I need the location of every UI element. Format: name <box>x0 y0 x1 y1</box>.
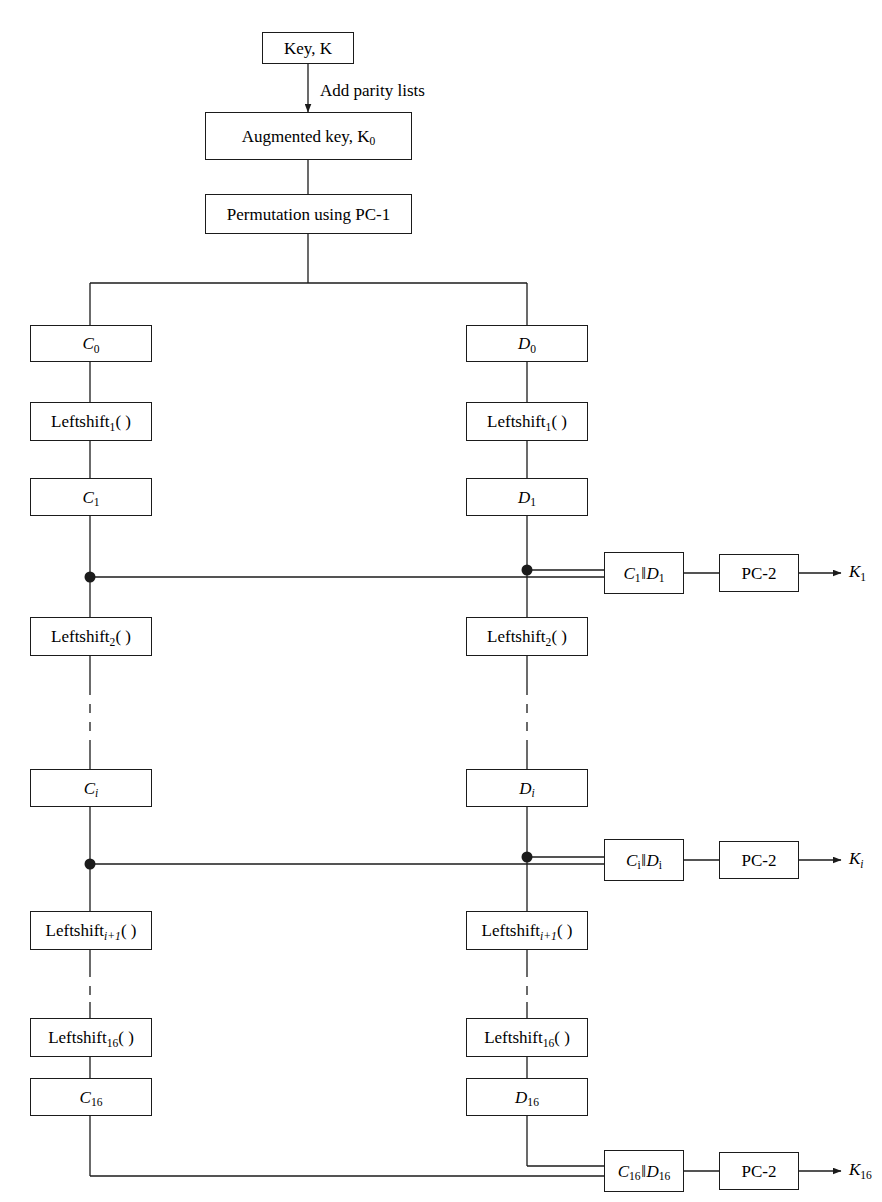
box-leftshift-i-plus-1-left[interactable]: Leftshifti+1( ) <box>30 911 152 950</box>
box-d0[interactable]: D0 <box>466 325 588 362</box>
box-di-label: Di <box>519 780 535 797</box>
box-d1[interactable]: D1 <box>466 478 588 516</box>
box-di[interactable]: Di <box>466 769 588 807</box>
label-add-parity-lists: Add parity lists <box>320 82 425 99</box>
box-leftshift1-left[interactable]: Leftshift1( ) <box>30 402 152 441</box>
box-merge-c16-d16-label: C16‖D16 <box>618 1163 671 1180</box>
des-key-schedule-diagram: Key, K Add parity lists Augmented key, K… <box>0 0 882 1202</box>
label-k1-output: K1 <box>849 563 866 580</box>
box-leftshift1-right[interactable]: Leftshift1( ) <box>466 402 588 441</box>
label-k16-output: K16 <box>849 1161 872 1178</box>
box-pc2-round16[interactable]: PC-2 <box>719 1152 799 1190</box>
box-c0-label: C0 <box>82 335 99 352</box>
box-merge-c16-d16[interactable]: C16‖D16 <box>604 1150 684 1192</box>
box-key-label: Key, K <box>284 40 332 57</box>
junction-dot-round1-left <box>85 572 96 583</box>
box-permutation-pc1[interactable]: Permutation using PC-1 <box>205 194 412 234</box>
box-merge-c1-d1-label: C1‖D1 <box>624 565 665 582</box>
box-c16[interactable]: C16 <box>30 1078 152 1116</box>
box-d16[interactable]: D16 <box>466 1078 588 1116</box>
label-ki-output: Ki <box>849 850 864 867</box>
box-augmented-key[interactable]: Augmented key, K0 <box>205 112 412 160</box>
junction-dot-round1-right <box>522 565 533 576</box>
box-leftshift1-left-label: Leftshift1( ) <box>51 413 131 430</box>
box-c0[interactable]: C0 <box>30 325 152 362</box>
junction-dot-roundi-left <box>85 859 96 870</box>
box-leftshift16-right-label: Leftshift16( ) <box>484 1029 570 1046</box>
box-leftshift1-right-label: Leftshift1( ) <box>487 413 567 430</box>
junction-dot-roundi-right <box>522 852 533 863</box>
box-leftshift2-left-label: Leftshift2( ) <box>51 628 131 645</box>
box-ci-label: Ci <box>84 780 99 797</box>
box-permutation-pc1-label: Permutation using PC-1 <box>227 206 390 223</box>
box-key[interactable]: Key, K <box>262 32 354 64</box>
box-ci[interactable]: Ci <box>30 769 152 807</box>
box-d16-label: D16 <box>515 1089 539 1106</box>
box-pc2-roundi-label: PC-2 <box>742 852 777 869</box>
box-merge-ci-di-label: Ci‖Di <box>626 852 662 869</box>
box-leftshift16-left-label: Leftshift16( ) <box>48 1029 134 1046</box>
box-leftshift-i-plus-1-left-label: Leftshifti+1( ) <box>46 922 137 939</box>
box-pc2-round16-label: PC-2 <box>742 1163 777 1180</box>
box-leftshift16-left[interactable]: Leftshift16( ) <box>30 1018 152 1057</box>
box-leftshift2-right[interactable]: Leftshift2( ) <box>466 617 588 656</box>
box-leftshift16-right[interactable]: Leftshift16( ) <box>466 1018 588 1057</box>
box-leftshift2-left[interactable]: Leftshift2( ) <box>30 617 152 656</box>
box-pc2-roundi[interactable]: PC-2 <box>719 841 799 879</box>
box-merge-ci-di[interactable]: Ci‖Di <box>604 839 684 881</box>
box-leftshift-i-plus-1-right-label: Leftshifti+1( ) <box>482 922 573 939</box>
box-merge-c1-d1[interactable]: C1‖D1 <box>604 552 684 594</box>
box-pc2-round1-label: PC-2 <box>742 565 777 582</box>
box-augmented-key-label: Augmented key, K0 <box>242 128 376 145</box>
box-pc2-round1[interactable]: PC-2 <box>719 554 799 592</box>
box-c1[interactable]: C1 <box>30 478 152 516</box>
box-c1-label: C1 <box>82 489 99 506</box>
box-d1-label: D1 <box>518 489 536 506</box>
box-d0-label: D0 <box>518 335 536 352</box>
box-leftshift2-right-label: Leftshift2( ) <box>487 628 567 645</box>
box-c16-label: C16 <box>80 1089 103 1106</box>
box-leftshift-i-plus-1-right[interactable]: Leftshifti+1( ) <box>466 911 588 950</box>
